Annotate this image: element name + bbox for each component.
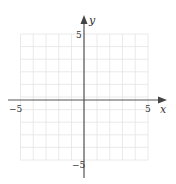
x-axis: [8, 97, 167, 104]
y-axis-label: y: [88, 14, 96, 27]
coordinate-plane: y x −5 5 5 −5: [0, 0, 176, 184]
y-tick-label-neg5: −5: [72, 160, 86, 170]
y-tick-label-5: 5: [76, 30, 82, 40]
y-axis-arrow-icon: [81, 15, 88, 24]
x-axis-label: x: [160, 103, 167, 116]
x-tick-label-neg5: −5: [9, 104, 23, 114]
x-tick-label-5: 5: [145, 104, 151, 114]
